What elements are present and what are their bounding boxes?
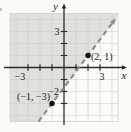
x-tick-label-3: 3	[100, 71, 105, 82]
page-edge-mark	[0, 8, 2, 11]
x-axis-label: x	[121, 69, 127, 81]
y-tick-label-3: 3	[55, 26, 60, 37]
point-label-neg1-neg3: (−1, −3)	[17, 91, 50, 103]
y-axis-label: y	[52, 0, 58, 12]
y-axis-arrowhead	[62, 4, 67, 9]
coordinate-plane: y x 3 −2 3 −3 (2, 1) (−1, −3)	[0, 0, 131, 132]
point-label-2-1: (2, 1)	[91, 51, 113, 63]
inequality-graph-figure: y x 3 −2 3 −3 (2, 1) (−1, −3)	[0, 0, 131, 132]
x-tick-label-neg3: −3	[15, 71, 26, 82]
